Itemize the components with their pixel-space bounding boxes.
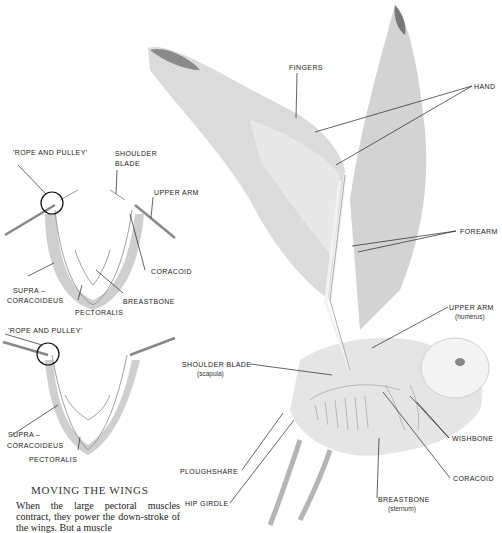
label-scapula: (scapula) <box>197 370 224 377</box>
label-coracoid: CORACOID <box>453 474 494 483</box>
top-inset-coracoid: CORACOID <box>151 267 192 276</box>
top-inset-rope-pulley: 'ROPE AND PULLEY' <box>13 148 87 157</box>
top-inset-pectoralis: PECTORALIS <box>75 308 123 317</box>
label-hand: HAND <box>474 82 495 91</box>
top-inset-upper-arm: UPPER ARM <box>154 188 199 197</box>
bottom-inset-coracoideus: CORACOIDEUS <box>7 441 64 450</box>
top-inset-shoulder: SHOULDER <box>115 149 157 158</box>
label-humerus: (humerus) <box>455 313 485 320</box>
caption-text: When the large pectoral muscles contract… <box>16 500 180 533</box>
label-ploughshare: PLOUGHSHARE <box>180 467 238 476</box>
label-breastbone: BREASTBONE <box>378 495 430 504</box>
top-inset-blade: BLADE <box>115 159 140 168</box>
label-upper-arm: UPPER ARM <box>449 303 494 312</box>
top-inset-coracoideus: CORACOIDEUS <box>7 296 64 305</box>
bottom-inset-pectoralis: PECTORALIS <box>29 455 77 464</box>
label-shoulder-blade: SHOULDER BLADE <box>182 360 251 369</box>
label-wishbone: WISHBONE <box>452 434 493 443</box>
bottom-inset-rope-pulley: 'ROPE AND PULLEY' <box>8 326 82 335</box>
label-forearm: FOREARM <box>460 227 498 236</box>
top-inset-breastbone: BREASTBONE <box>123 297 175 306</box>
label-sternum: (sternum) <box>388 505 416 512</box>
top-inset-supra: SUPRA – <box>13 286 45 295</box>
label-hip-girdle: HIP GIRDLE <box>185 499 229 508</box>
label-fingers: FINGERS <box>289 63 323 72</box>
bottom-inset-supra: SUPRA – <box>8 430 40 439</box>
caption-title: MOVING THE WINGS <box>31 484 148 496</box>
